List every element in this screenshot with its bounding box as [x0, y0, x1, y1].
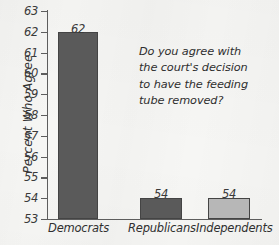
bar-value-republicans: 54: [140, 187, 182, 201]
y-tick-mark: [41, 53, 48, 54]
y-tick-label: 61: [12, 46, 38, 60]
y-tick-label: 55: [12, 170, 38, 184]
y-tick-label: 53: [12, 212, 38, 226]
y-tick-label: 54: [12, 191, 38, 205]
y-tick-mark: [41, 198, 48, 199]
annotation-line-1: Do you agree with: [139, 44, 271, 60]
annotation-line-3: to have the feeding: [139, 77, 271, 93]
annotation-line-2: the court's decision: [139, 60, 271, 76]
y-tick-mark: [41, 219, 48, 220]
chart-annotation: Do you agree with the court's decision t…: [139, 44, 271, 110]
y-tick-label: 63: [12, 4, 38, 18]
y-tick-label: 62: [12, 25, 38, 39]
y-tick-mark: [41, 73, 48, 74]
bar-republicans[interactable]: [140, 198, 182, 219]
y-tick-label: 60: [12, 66, 38, 80]
bar-value-independents: 54: [208, 187, 250, 201]
y-tick-mark: [41, 177, 48, 178]
annotation-line-4: tube removed?: [139, 93, 271, 109]
category-label-independents: Independents: [196, 221, 264, 235]
bar-chart-figure: Percent Who Agree 6362616059585756555453…: [0, 0, 279, 245]
bar-independents[interactable]: [208, 198, 250, 219]
y-tick-mark: [41, 157, 48, 158]
y-tick-label: 56: [12, 150, 38, 164]
y-tick-label: 57: [12, 129, 38, 143]
category-label-democrats: Democrats: [48, 221, 108, 235]
y-tick-mark: [41, 94, 48, 95]
bar-democrats[interactable]: [58, 32, 98, 219]
y-tick-mark: [41, 136, 48, 137]
y-tick-mark: [41, 115, 48, 116]
y-tick-mark: [41, 11, 48, 12]
y-tick-mark: [41, 32, 48, 33]
category-label-republicans: Republicans: [128, 221, 194, 235]
y-tick-label: 58: [12, 108, 38, 122]
bar-value-democrats: 62: [58, 22, 98, 36]
y-tick-label: 59: [12, 87, 38, 101]
